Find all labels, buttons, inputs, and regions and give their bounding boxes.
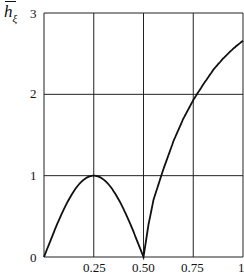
grid-lines <box>44 13 243 257</box>
chart-plot-area <box>0 0 244 275</box>
y-tick-0: 0 <box>30 250 37 266</box>
x-tick-1: 1 <box>238 260 244 275</box>
x-tick-0-75: 0.75 <box>181 260 204 275</box>
y-tick-3: 3 <box>30 6 37 22</box>
y-tick-1: 1 <box>30 168 37 184</box>
x-tick-0-50: 0.50 <box>132 260 155 275</box>
x-tick-0-25: 0.25 <box>83 260 106 275</box>
y-tick-2: 2 <box>30 86 37 102</box>
y-axis-label: hξ <box>4 2 17 22</box>
